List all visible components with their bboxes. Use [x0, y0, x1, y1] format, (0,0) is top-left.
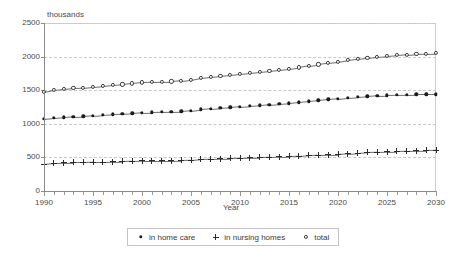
y-axis-tick-label: 1000 [22, 120, 40, 128]
gridline [44, 23, 436, 24]
data-point-marker [325, 152, 331, 158]
x-axis-tick [436, 191, 437, 196]
legend-marker-icon [212, 234, 219, 241]
data-point-marker [198, 156, 204, 162]
data-point-marker [110, 159, 116, 165]
data-point-marker [228, 73, 232, 77]
legend-marker-icon [302, 234, 309, 241]
y-axis-tick-label: 1500 [22, 86, 40, 94]
data-point-marker [100, 159, 106, 165]
data-point-marker [160, 110, 163, 113]
data-point-marker [326, 61, 330, 65]
data-point-marker [52, 88, 56, 92]
data-point-marker [199, 76, 203, 80]
data-point-marker [277, 68, 281, 72]
legend-item[interactable]: in nursing homes [212, 233, 285, 242]
data-point-marker [365, 56, 369, 60]
data-point-marker [415, 93, 418, 96]
data-point-marker [307, 64, 311, 68]
data-point-marker [52, 116, 55, 119]
legend-item[interactable]: in home care [137, 233, 195, 242]
data-point-marker [404, 148, 410, 154]
data-point-marker [257, 154, 263, 160]
data-point-marker [218, 74, 222, 78]
data-point-marker [219, 106, 222, 109]
data-point-marker [356, 95, 359, 98]
data-point-marker [189, 109, 192, 112]
y-axis-tick-label: 500 [27, 153, 40, 161]
gridline [44, 124, 436, 125]
data-point-marker [247, 155, 253, 161]
data-point-marker [189, 78, 193, 82]
y-axis-line [44, 23, 45, 191]
data-point-marker [433, 147, 439, 153]
data-point-marker [385, 94, 388, 97]
data-point-marker [286, 153, 292, 159]
data-point-marker [384, 149, 390, 155]
data-point-marker [277, 102, 280, 105]
data-point-marker [297, 65, 301, 69]
data-point-marker [150, 111, 153, 114]
data-point-marker [434, 93, 437, 96]
data-point-marker [227, 155, 233, 161]
data-point-marker [434, 51, 438, 55]
legend-item[interactable]: total [302, 233, 329, 242]
data-point-marker [306, 152, 312, 158]
y-axis-tick-label: 2500 [22, 19, 40, 27]
chart-container: thousands 050010001500200025001990199520… [0, 0, 462, 259]
data-point-marker [414, 52, 418, 56]
y-axis-tick-label: 2000 [22, 53, 40, 61]
data-point-marker [374, 149, 380, 155]
data-point-marker [169, 79, 173, 83]
data-point-marker [413, 148, 419, 154]
data-point-marker [258, 104, 261, 107]
data-point-marker [326, 98, 329, 101]
gridline [44, 90, 436, 91]
legend-item-label: in nursing homes [224, 233, 285, 242]
data-point-marker [120, 82, 124, 86]
data-point-marker [238, 72, 242, 76]
data-point-marker [296, 153, 302, 159]
data-point-marker [424, 51, 428, 55]
data-point-marker [248, 104, 251, 107]
data-point-marker [375, 55, 379, 59]
data-point-marker [80, 159, 86, 165]
data-point-marker [140, 80, 144, 84]
data-point-marker [139, 158, 145, 164]
data-point-marker [266, 154, 272, 160]
data-point-marker [355, 150, 361, 156]
data-point-marker [345, 151, 351, 157]
data-point-marker [51, 160, 57, 166]
data-point-marker [149, 158, 155, 164]
data-point-marker [121, 112, 124, 115]
data-point-marker [101, 113, 104, 116]
data-point-marker [70, 159, 76, 165]
data-point-marker [130, 81, 134, 85]
data-point-marker [179, 110, 182, 113]
data-point-marker [258, 70, 262, 74]
data-point-marker [317, 99, 320, 102]
data-point-marker [395, 93, 398, 96]
data-point-marker [287, 67, 291, 71]
data-point-marker [297, 101, 300, 104]
data-point-marker [61, 160, 67, 166]
data-point-marker [346, 58, 350, 62]
legend-marker-icon [137, 234, 144, 241]
data-point-marker [119, 158, 125, 164]
data-point-marker [228, 106, 231, 109]
data-point-marker [159, 158, 165, 164]
data-point-marker [81, 115, 84, 118]
data-point-marker [237, 155, 243, 161]
data-point-marker [335, 151, 341, 157]
data-point-marker [168, 158, 174, 164]
data-point-marker [287, 102, 290, 105]
data-point-marker [199, 108, 202, 111]
x-axis-title: Year [0, 203, 462, 212]
legend-item-label: total [314, 233, 329, 242]
y-axis-tick-label: 0 [36, 187, 40, 195]
data-point-marker [316, 62, 320, 66]
x-axis-line [44, 191, 436, 192]
data-point-marker [101, 84, 105, 88]
data-point-marker [150, 80, 154, 84]
data-point-marker [129, 158, 135, 164]
